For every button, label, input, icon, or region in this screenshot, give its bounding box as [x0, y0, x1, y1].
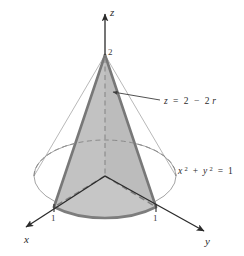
svg-text:z = 2: z = 2 − 2 r — [163, 96, 216, 106]
surface-eq-rhs-first: 2 — [184, 96, 189, 106]
surface-eq-equals: = — [173, 96, 178, 106]
surface-equation-label: z = 2 − 2 r — [163, 96, 216, 106]
circle-eq-y-exponent: 2 — [210, 165, 213, 172]
circle-eq-x-exponent: 2 — [185, 165, 188, 172]
surface-eq-minus: − — [194, 96, 199, 106]
y-axis-label: y — [204, 235, 210, 247]
circle-equation-label: x 2 + y 2 = 1 — [177, 165, 233, 177]
x-axis-label: x — [23, 233, 29, 245]
surface-eq-lhs: z — [163, 96, 168, 106]
cone-diagram-figure: z x y 2 1 1 z = 2 − 2 r x 2 + y 2 — [0, 0, 244, 256]
surface-eq-rhs-second: 2 — [205, 96, 210, 106]
z-axis-label: z — [109, 6, 115, 18]
svg-text:x 2 +: x 2 + y 2 = 1 — [177, 165, 233, 177]
circle-eq-x-var: x — [177, 166, 183, 176]
circle-eq-value: 1 — [228, 166, 233, 176]
x-tick-1-label: 1 — [51, 213, 56, 223]
surface-eq-radius-var: r — [212, 96, 216, 106]
circle-eq-equals: = — [218, 166, 223, 176]
y-tick-1-label: 1 — [153, 213, 158, 223]
circle-eq-y-var: y — [202, 166, 208, 176]
figure-canvas: z x y 2 1 1 z = 2 − 2 r x 2 + y 2 — [0, 0, 244, 256]
circle-eq-plus: + — [193, 166, 198, 176]
z-tick-2-label: 2 — [108, 47, 113, 57]
